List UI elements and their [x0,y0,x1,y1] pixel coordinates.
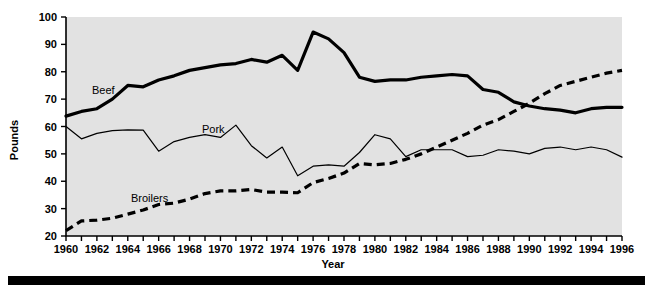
footer-rule [8,276,645,285]
y-tick-label: 40 [45,175,57,187]
x-tick-label: 1976 [301,243,325,255]
x-tick-label: 1988 [486,243,510,255]
x-tick-label: 1972 [239,243,263,255]
x-tick-label: 1966 [146,243,170,255]
y-tick-label: 60 [45,121,57,133]
y-axis-title: Pounds [8,120,20,160]
x-tick-label: 1978 [332,243,356,255]
x-tick-label: 1962 [85,243,109,255]
x-tick-label: 1984 [424,243,449,255]
x-axis-title: Year [321,258,345,270]
x-tick-label: 1980 [363,243,387,255]
y-tick-label: 90 [45,38,57,50]
y-tick-label: 20 [45,230,57,242]
x-tick-label: 1986 [455,243,479,255]
x-tick-label: 1994 [579,243,604,255]
meat-consumption-line-chart: 2030405060708090100 19601962196419661968… [0,0,653,289]
y-tick-label: 50 [45,148,57,160]
x-tick-label: 1964 [116,243,141,255]
x-tick-label: 1992 [548,243,572,255]
y-tick-label: 30 [45,203,57,215]
x-tick-label: 1996 [610,243,634,255]
y-tick-label: 100 [39,11,57,23]
series-label-pork: Pork [202,123,225,135]
x-tick-label: 1974 [270,243,295,255]
y-tick-label: 80 [45,66,57,78]
chart-figure: 2030405060708090100 19601962196419661968… [0,0,653,289]
y-tick-label: 70 [45,93,57,105]
x-tick-label: 1982 [394,243,418,255]
x-tick-label: 1990 [517,243,541,255]
x-tick-label: 1960 [54,243,78,255]
x-tick-label: 1970 [208,243,232,255]
x-tick-label: 1968 [177,243,201,255]
series-label-beef: Beef [92,84,116,96]
series-label-broilers: Broilers [131,192,169,204]
